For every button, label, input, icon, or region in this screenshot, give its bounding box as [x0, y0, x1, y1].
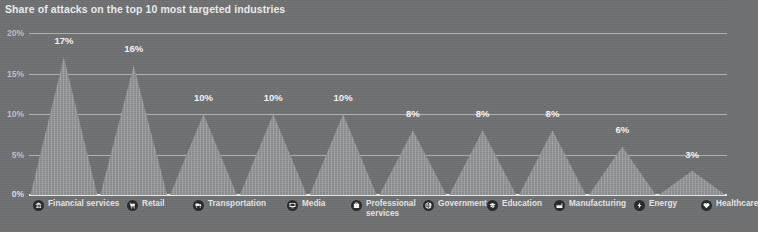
- factory-icon: [554, 200, 565, 211]
- bar-column: 3%: [659, 33, 726, 195]
- legend-item-media[interactable]: Media: [287, 199, 325, 211]
- bar: [659, 171, 726, 195]
- legend-item-label: Financial services: [48, 199, 119, 209]
- bank-icon: [33, 200, 44, 211]
- bar: [310, 114, 377, 195]
- bar-value-label: 17%: [54, 35, 73, 46]
- chart-legend: Financial servicesRetailTransportationMe…: [29, 199, 727, 232]
- monitor-icon: [287, 200, 298, 211]
- bar-column: 8%: [379, 33, 446, 195]
- y-axis-tick-label: 5%: [12, 150, 24, 160]
- y-axis-tick-label: 10%: [7, 109, 24, 119]
- bar-value-label: 16%: [124, 43, 143, 54]
- bars-group: 17%16%10%10%10%8%8%8%6%3%: [29, 33, 727, 195]
- y-axis-tick-label: 0%: [12, 189, 24, 199]
- legend-item-label: Professional services: [366, 199, 418, 219]
- legend-item-education[interactable]: Education: [487, 199, 542, 211]
- plot-area: 0%5%10%15%20% 17%16%10%10%10%8%8%8%6%3%: [29, 33, 727, 195]
- bar: [519, 130, 586, 195]
- truck-icon: [193, 200, 204, 211]
- legend-item-government[interactable]: Government: [423, 199, 487, 211]
- y-axis-tick-label: 20%: [7, 28, 24, 38]
- bar-value-label: 10%: [264, 92, 283, 103]
- bar: [170, 114, 237, 195]
- bar-column: 6%: [589, 33, 656, 195]
- bar-column: 8%: [449, 33, 516, 195]
- bar: [589, 146, 656, 195]
- legend-item-energy[interactable]: Energy: [634, 199, 677, 211]
- bar-value-label: 8%: [476, 108, 490, 119]
- bar-column: 10%: [240, 33, 307, 195]
- graduation-cap-icon: [487, 200, 498, 211]
- heart-pulse-icon: [701, 200, 712, 211]
- legend-item-manufacturing[interactable]: Manufacturing: [554, 199, 626, 211]
- bar-column: 16%: [100, 33, 167, 195]
- bar-value-label: 6%: [615, 124, 629, 135]
- y-axis-tick-label: 15%: [7, 69, 24, 79]
- shopping-cart-icon: [127, 200, 138, 211]
- briefcase-icon: [351, 200, 362, 211]
- bar-value-label: 8%: [546, 108, 560, 119]
- legend-item-label: Healthcare: [716, 199, 758, 209]
- bar-value-label: 3%: [685, 149, 699, 160]
- bar: [30, 57, 97, 195]
- bar-column: 17%: [30, 33, 97, 195]
- bar-column: 8%: [519, 33, 586, 195]
- lightning-bolt-icon: [634, 200, 645, 211]
- bar-column: 10%: [310, 33, 377, 195]
- legend-item-financial-services[interactable]: Financial services: [33, 199, 119, 211]
- bar-value-label: 10%: [194, 92, 213, 103]
- bar: [100, 65, 167, 195]
- legend-item-retail[interactable]: Retail: [127, 199, 165, 211]
- legend-item-label: Manufacturing: [569, 199, 626, 209]
- legend-item-label: Retail: [142, 199, 165, 209]
- legend-item-label: Government: [438, 199, 487, 209]
- bar-column: 10%: [170, 33, 237, 195]
- legend-item-label: Education: [502, 199, 542, 209]
- chart-title: Share of attacks on the top 10 most targ…: [5, 3, 285, 15]
- legend-item-label: Media: [302, 199, 325, 209]
- legend-item-transportation[interactable]: Transportation: [193, 199, 266, 211]
- legend-item-label: Transportation: [208, 199, 266, 209]
- bar: [379, 130, 446, 195]
- legend-item-label: Energy: [649, 199, 677, 209]
- legend-item-professional-services[interactable]: Professional services: [351, 199, 418, 219]
- bar: [449, 130, 516, 195]
- bar-value-label: 8%: [406, 108, 420, 119]
- legend-item-healthcare[interactable]: Healthcare: [701, 199, 758, 211]
- bar: [240, 114, 307, 195]
- bar-value-label: 10%: [334, 92, 353, 103]
- globe-icon: [423, 200, 434, 211]
